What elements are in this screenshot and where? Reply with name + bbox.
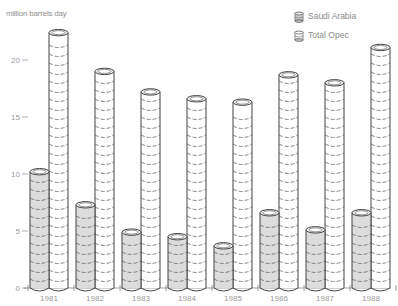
bar-total-opec-1988 [371,44,390,291]
y-tick-10: 10 [11,170,28,179]
bar-total-opec-1985 [233,99,252,291]
bar-chart: 0510152019811982198319841985198619871988 [0,0,398,306]
x-tick-1986: 1986 [270,294,288,303]
bar-total-opec-1984 [187,96,206,291]
bar-saudi-arabia-1982 [76,202,95,291]
svg-text:20: 20 [11,56,20,65]
y-tick-5: 5 [16,227,28,236]
bar-saudi-arabia-1981 [30,169,49,291]
bar-saudi-arabia-1985 [214,243,233,291]
x-tick-1982: 1982 [86,294,104,303]
bar-saudi-arabia-1983 [122,229,141,291]
x-tick-1983: 1983 [132,294,150,303]
bar-saudi-arabia-1988 [352,210,371,291]
bar-total-opec-1987 [325,80,344,291]
svg-text:0: 0 [16,284,21,293]
bar-saudi-arabia-1986 [260,210,279,291]
bar-saudi-arabia-1987 [306,227,325,291]
bar-total-opec-1981 [49,29,68,291]
svg-text:10: 10 [11,170,20,179]
x-tick-1987: 1987 [316,294,334,303]
x-tick-1985: 1985 [224,294,242,303]
y-tick-0: 0 [16,284,28,293]
svg-text:15: 15 [11,113,20,122]
bar-total-opec-1982 [95,68,114,291]
x-tick-1988: 1988 [362,294,380,303]
x-tick-1981: 1981 [40,294,58,303]
y-tick-20: 20 [11,56,28,65]
bar-saudi-arabia-1984 [168,234,187,292]
bar-total-opec-1986 [279,72,298,291]
y-tick-15: 15 [11,113,28,122]
x-tick-1984: 1984 [178,294,196,303]
bar-total-opec-1983 [141,89,160,291]
svg-text:5: 5 [16,227,21,236]
